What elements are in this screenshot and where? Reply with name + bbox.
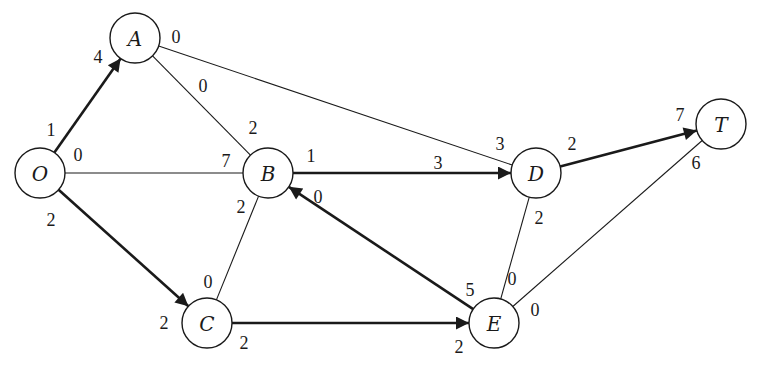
capacity-label: 2 — [535, 208, 544, 228]
capacity-label: 2 — [160, 313, 169, 333]
capacity-label: 0 — [531, 300, 540, 320]
capacity-label: 2 — [249, 118, 258, 138]
node-label: E — [486, 312, 502, 336]
capacity-label: 6 — [692, 153, 701, 173]
edges — [54, 46, 702, 323]
node-e: E — [469, 298, 519, 348]
capacity-label: 0 — [314, 187, 323, 207]
capacity-label: 3 — [434, 153, 443, 173]
node-label: D — [527, 162, 544, 186]
capacity-label: 0 — [199, 76, 208, 96]
node-a: A — [110, 13, 160, 63]
capacity-label: 2 — [568, 134, 577, 154]
capacity-label: 0 — [74, 145, 83, 165]
capacity-label: 7 — [222, 151, 231, 171]
node-d: D — [511, 148, 561, 198]
node-b: B — [243, 148, 293, 198]
capacity-label: 0 — [172, 27, 181, 47]
capacity-label: 2 — [455, 337, 464, 357]
edge-a-b — [153, 56, 251, 155]
capacity-label: 5 — [466, 280, 475, 300]
edge-o-c — [59, 190, 189, 307]
capacity-label: 3 — [496, 134, 505, 154]
node-t: T — [696, 99, 746, 149]
nodes: OABCDET — [15, 13, 746, 348]
capacity-label: 7 — [676, 105, 685, 125]
node-label: C — [199, 312, 214, 336]
node-o: O — [15, 148, 65, 198]
capacity-label: 1 — [47, 120, 56, 140]
capacity-label: 0 — [204, 272, 213, 292]
node-label: O — [32, 162, 48, 186]
node-label: A — [126, 27, 142, 51]
edge-d-t — [560, 130, 697, 166]
edge-o-a — [54, 58, 120, 152]
edge-a-d — [159, 46, 513, 165]
node-label: B — [260, 162, 276, 186]
flow-network-diagram: OABCDET 140722002313200522272006 — [0, 0, 757, 368]
node-label: T — [714, 113, 729, 137]
capacity-label: 2 — [240, 333, 249, 353]
capacity-label: 1 — [307, 146, 316, 166]
node-c: C — [182, 298, 232, 348]
capacity-label: 4 — [94, 47, 103, 67]
capacity-label: 0 — [508, 269, 517, 289]
edge-capacity-labels: 140722002313200522272006 — [47, 27, 701, 357]
capacity-label: 2 — [237, 197, 246, 217]
capacity-label: 2 — [47, 210, 56, 230]
